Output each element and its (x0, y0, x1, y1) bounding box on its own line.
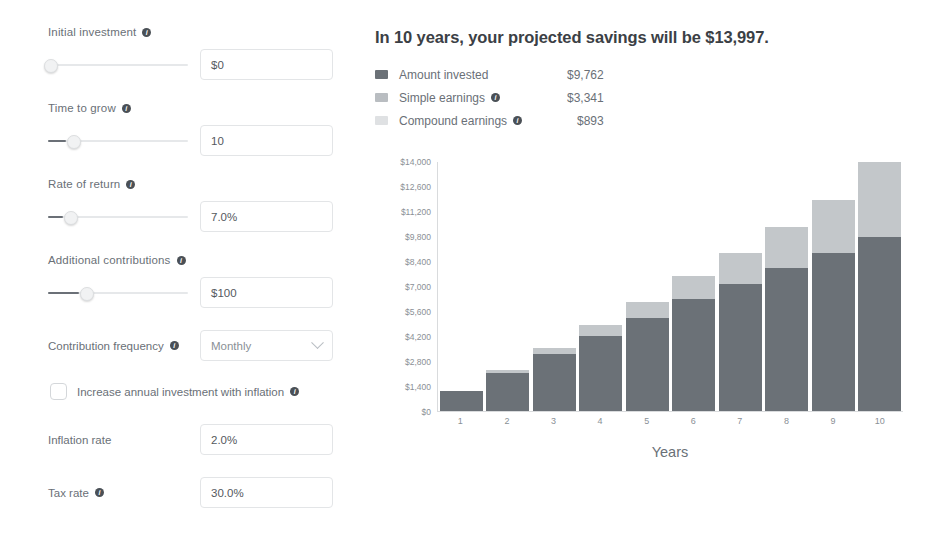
results-panel: In 10 years, your projected savings will… (340, 0, 931, 551)
label-inflation-rate: Inflation rate (48, 434, 200, 446)
slider-thumb[interactable] (67, 135, 81, 149)
bar-segment-invested (719, 284, 762, 411)
info-icon[interactable]: i (290, 387, 299, 396)
input-tax-rate-value: 30.0% (211, 487, 244, 499)
bar-segment-invested (672, 299, 715, 411)
x-axis-tick: 3 (532, 416, 575, 430)
legend-label-text: Compound earnings (399, 114, 507, 128)
input-initial-investment-value: $0 (211, 59, 224, 71)
select-contribution-frequency[interactable]: Monthly (200, 330, 333, 361)
slider-fill (48, 292, 79, 294)
input-additional-contributions[interactable]: $100 (200, 277, 333, 308)
slider-thumb[interactable] (44, 59, 58, 73)
control-row-initial-investment: $0 (48, 49, 340, 80)
y-axis: $0$1,400$2,800$4,200$5,600$7,000$8,400$9… (375, 162, 431, 412)
legend-label: Amount invested (399, 68, 567, 82)
bar-column[interactable] (486, 162, 529, 411)
bar-column[interactable] (626, 162, 669, 411)
slider-initial-investment[interactable] (48, 56, 196, 74)
info-icon[interactable]: i (95, 488, 104, 497)
label-time-to-grow: Time to grow i (48, 102, 340, 114)
input-inflation-rate-value: 2.0% (211, 434, 237, 446)
label-contribution-frequency: Contribution frequency i (48, 340, 200, 352)
label-additional-contributions-text: Additional contributions (48, 254, 171, 266)
control-row-rate-of-return: 7.0% (48, 201, 340, 232)
field-time-to-grow: Time to grow i 10 (48, 102, 340, 156)
info-icon[interactable]: i (142, 28, 151, 37)
input-initial-investment[interactable]: $0 (200, 49, 333, 80)
bar-column[interactable] (858, 162, 901, 411)
label-increase-with-inflation: Increase annual investment with inflatio… (77, 386, 299, 398)
bar-segment-earnings (672, 276, 715, 299)
label-additional-contributions: Additional contributions i (48, 254, 340, 266)
label-rate-of-return-text: Rate of return (48, 178, 120, 190)
legend-label-text: Amount invested (399, 68, 488, 82)
input-tax-rate[interactable]: 30.0% (200, 477, 333, 508)
y-axis-tick: $9,800 (405, 232, 431, 242)
bar-segment-earnings (626, 302, 669, 318)
label-inflation-rate-text: Inflation rate (48, 434, 111, 446)
input-rate-of-return[interactable]: 7.0% (200, 201, 333, 232)
results-headline: In 10 years, your projected savings will… (375, 28, 913, 47)
info-icon[interactable]: i (122, 104, 131, 113)
input-rate-of-return-value: 7.0% (211, 211, 237, 223)
bar-segment-invested (858, 237, 901, 411)
y-axis-tick: $14,000 (400, 157, 431, 167)
bar-column[interactable] (672, 162, 715, 411)
input-additional-contributions-value: $100 (211, 287, 237, 299)
legend-label: Compound earningsi (399, 114, 567, 128)
y-axis-tick: $2,800 (405, 357, 431, 367)
label-tax-rate: Tax rate i (48, 487, 200, 499)
bar-segment-earnings (858, 162, 901, 237)
legend-item: Compound earningsi$893 (375, 109, 913, 132)
bar-column[interactable] (812, 162, 855, 411)
slider-additional-contributions[interactable] (48, 284, 196, 302)
info-icon[interactable]: i (170, 341, 179, 350)
checkbox-increase-with-inflation[interactable] (50, 383, 67, 400)
input-time-to-grow[interactable]: 10 (200, 125, 333, 156)
bar-segment-invested (626, 318, 669, 411)
y-axis-tick: $0 (422, 407, 431, 417)
slider-rate-of-return[interactable] (48, 208, 196, 226)
bar-segment-invested (765, 268, 808, 411)
input-inflation-rate[interactable]: 2.0% (200, 424, 333, 455)
y-axis-tick: $11,200 (401, 207, 431, 217)
label-tax-rate-text: Tax rate (48, 487, 89, 499)
bar-column[interactable] (579, 162, 622, 411)
field-increase-with-inflation[interactable]: Increase annual investment with inflatio… (50, 383, 340, 400)
bar-column[interactable] (440, 162, 483, 411)
legend-swatch (375, 70, 388, 79)
bar-segment-invested (579, 336, 622, 411)
bar-column[interactable] (533, 162, 576, 411)
legend-item: Amount invested$9,762 (375, 63, 913, 86)
calculator-form: Initial investment i $0 Time to grow i (0, 0, 340, 551)
bar-column[interactable] (765, 162, 808, 411)
info-icon[interactable]: i (491, 93, 500, 102)
control-row-additional-contributions: $100 (48, 277, 340, 308)
legend-item: Simple earningsi$3,341 (375, 86, 913, 109)
y-axis-tick: $12,600 (400, 182, 431, 192)
bar-segment-earnings (812, 200, 855, 252)
info-icon[interactable]: i (177, 256, 186, 265)
field-rate-of-return: Rate of return i 7.0% (48, 178, 340, 232)
slider-time-to-grow[interactable] (48, 132, 196, 150)
slider-thumb[interactable] (80, 287, 94, 301)
bar-column[interactable] (719, 162, 762, 411)
field-initial-investment: Initial investment i $0 (48, 26, 340, 80)
legend-value: $893 (567, 114, 604, 128)
chevron-down-icon (311, 336, 324, 349)
label-increase-with-inflation-text: Increase annual investment with inflatio… (77, 386, 284, 398)
x-axis: 12345678910 (437, 416, 903, 430)
info-icon[interactable]: i (126, 180, 135, 189)
bar-group (438, 162, 903, 411)
label-initial-investment: Initial investment i (48, 26, 340, 38)
y-axis-tick: $5,600 (405, 307, 431, 317)
slider-thumb[interactable] (64, 211, 78, 225)
info-icon[interactable]: i (513, 116, 522, 125)
legend-swatch (375, 116, 388, 125)
bar-segment-invested (533, 354, 576, 411)
x-axis-tick: 7 (718, 416, 761, 430)
x-axis-tick: 1 (439, 416, 482, 430)
savings-calculator: Initial investment i $0 Time to grow i (0, 0, 931, 551)
x-axis-tick: 9 (812, 416, 855, 430)
